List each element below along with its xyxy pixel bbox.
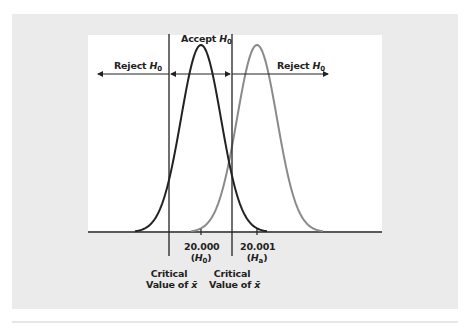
xbar-symbol: x̄ — [254, 279, 260, 290]
subscript-a: a — [259, 257, 264, 265]
tick-value: 20.001 — [240, 241, 274, 252]
accept-text: Accept — [181, 33, 216, 44]
value-of-text: Value of — [146, 279, 188, 290]
critical-text: Critical — [209, 268, 255, 279]
subscript-0: 0 — [320, 65, 325, 73]
h-symbol: H — [219, 33, 227, 44]
reject-left-label: Reject H0 — [114, 60, 162, 75]
h-symbol: H — [195, 252, 203, 263]
tick-label-20000: 20.000 (H0) — [184, 241, 218, 267]
value-of-text: Value of — [209, 279, 251, 290]
tick-value: 20.000 — [184, 241, 218, 252]
subscript-0: 0 — [227, 38, 232, 46]
reject-text: Reject — [277, 60, 309, 71]
subscript-0: 0 — [203, 257, 208, 265]
reject-text: Reject — [114, 60, 146, 71]
h-symbol: H — [251, 252, 259, 263]
subscript-0: 0 — [157, 65, 162, 73]
tick-sublabel: (Ha) — [240, 252, 274, 267]
reject-right-label: Reject H0 — [277, 60, 325, 75]
critical-value-left-label: Critical Value of x̄ — [146, 268, 192, 290]
critical-text: Critical — [146, 268, 192, 279]
tick-label-20001: 20.001 (Ha) — [240, 241, 274, 267]
tick-sublabel: (H0) — [184, 252, 218, 267]
xbar-symbol: x̄ — [191, 279, 197, 290]
value-of-line: Value of x̄ — [146, 279, 192, 290]
critical-value-right-label: Critical Value of x̄ — [209, 268, 255, 290]
value-of-line: Value of x̄ — [209, 279, 255, 290]
accept-label: Accept H0 — [181, 33, 232, 48]
